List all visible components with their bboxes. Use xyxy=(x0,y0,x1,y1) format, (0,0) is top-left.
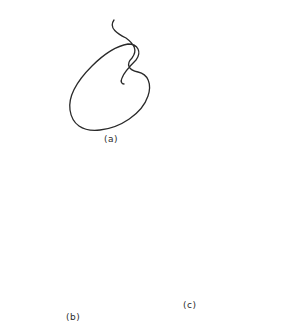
conformation-diagram xyxy=(0,0,288,330)
label-b: (b) xyxy=(66,312,80,322)
label-c: (c) xyxy=(183,300,196,310)
label-a: (a) xyxy=(104,134,118,144)
coil-a xyxy=(70,20,150,130)
